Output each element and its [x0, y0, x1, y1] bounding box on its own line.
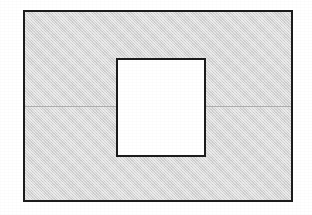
inner-square: [116, 58, 206, 157]
centerline-left-segment: [25, 106, 117, 107]
centerline-right-segment: [206, 106, 291, 107]
figure-canvas: [0, 0, 312, 215]
